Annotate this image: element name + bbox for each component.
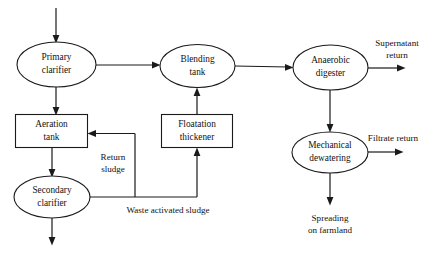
- mechanical-dewatering-label-line1: Mechanical: [308, 140, 352, 150]
- node-secondary-clarifier[interactable]: Secondary clarifier: [14, 176, 90, 218]
- secondary-clarifier-label-line2: clarifier: [37, 198, 67, 208]
- primary-clarifier-label-line1: Primary: [42, 52, 72, 62]
- node-aeration-tank[interactable]: Aeration tank: [16, 115, 88, 148]
- anaerobic-digester-label-line2: digester: [316, 68, 346, 78]
- edge-floatation-thickener-to-blending-tank: [194, 88, 201, 115]
- edge-mechanical-dewatering-filtrate-return: [367, 149, 404, 156]
- edge-primary-clarifier-to-blending-tank: [96, 62, 161, 69]
- blending-tank-label-line2: tank: [189, 67, 205, 77]
- arrow-head-icon: [194, 148, 201, 157]
- floatation-thickener-label-line1: Floatation: [178, 119, 216, 129]
- edge-anaerobic-digester-supernatant-return: [368, 65, 406, 72]
- return-sludge-label-line1: Return: [101, 152, 126, 162]
- node-mechanical-dewatering[interactable]: Mechanical dewatering: [292, 132, 368, 173]
- arrow-head-icon: [88, 130, 97, 137]
- edge-blending-tank-to-anaerobic-digester: [235, 64, 294, 71]
- node-blending-tank[interactable]: Blending tank: [160, 45, 235, 88]
- edge-influent-to-primary-clarifier: [53, 8, 60, 44]
- filtrate-return-label: Filtrate return: [368, 133, 419, 143]
- node-primary-clarifier[interactable]: Primary clarifier: [17, 42, 96, 87]
- label-filtrate-return: Filtrate return: [368, 133, 419, 143]
- supernatant-return-label-line2: return: [386, 50, 408, 60]
- node-floatation-thickener[interactable]: Floatation thickener: [162, 115, 233, 148]
- aeration-tank-label-line2: tank: [43, 132, 59, 142]
- node-anaerobic-digester[interactable]: Anaerobic digester: [293, 45, 368, 90]
- arrow-head-icon: [327, 197, 334, 206]
- arrow-head-icon: [285, 64, 294, 71]
- label-supernatant-return: Supernatant return: [375, 38, 419, 60]
- label-return-sludge: Return sludge: [101, 152, 126, 174]
- process-flow-diagram: Primary clarifier Blending tank Anaerobi…: [0, 0, 435, 261]
- edge-primary-clarifier-to-aeration-tank: [53, 87, 60, 116]
- arrow-head-icon: [49, 237, 56, 246]
- floatation-thickener-label-line2: thickener: [180, 132, 215, 142]
- arrow-head-icon: [327, 124, 334, 133]
- arrow-head-icon: [152, 62, 161, 69]
- edge-aeration-tank-to-secondary-clarifier: [49, 148, 56, 178]
- blending-tank-label-line1: Blending: [180, 54, 214, 64]
- edge-waste-activated-sludge-to-floatation-thickener: [194, 148, 201, 198]
- waste-activated-sludge-label: Waste activated sludge: [126, 205, 209, 215]
- flow-diagram-canvas: Primary clarifier Blending tank Anaerobi…: [0, 0, 435, 261]
- primary-clarifier-label-line2: clarifier: [42, 65, 72, 75]
- edge-anaerobic-digester-to-mechanical-dewatering: [327, 90, 334, 133]
- mechanical-dewatering-label-line2: dewatering: [309, 153, 351, 163]
- spreading-on-farmland-label-line2: on farmland: [308, 225, 353, 235]
- label-spreading-on-farmland: Spreading on farmland: [308, 213, 353, 235]
- return-sludge-label-line2: sludge: [101, 164, 125, 174]
- supernatant-return-label-line1: Supernatant: [375, 38, 419, 48]
- spreading-on-farmland-label-line1: Spreading: [312, 213, 349, 223]
- arrow-head-icon: [395, 149, 404, 156]
- secondary-clarifier-label-line1: Secondary: [32, 185, 72, 195]
- aeration-tank-label-line1: Aeration: [35, 119, 68, 129]
- edge-secondary-clarifier-effluent: [49, 218, 56, 246]
- label-waste-activated-sludge: Waste activated sludge: [126, 205, 209, 215]
- arrow-head-icon: [194, 88, 201, 97]
- arrow-head-icon: [397, 65, 406, 72]
- edge-mechanical-dewatering-to-farmland: [327, 173, 334, 206]
- anaerobic-digester-label-line1: Anaerobic: [311, 55, 350, 65]
